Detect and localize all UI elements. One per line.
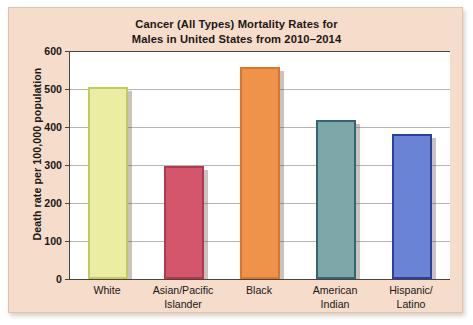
bar-shadow (432, 138, 436, 279)
x-axis-label-line: American (297, 284, 373, 298)
y-tick-label-200: 200 (44, 197, 62, 209)
bar-shadow (356, 124, 360, 279)
x-axis-label-5: Hispanic/Latino (373, 284, 449, 311)
x-axis-label-3: Black (221, 284, 297, 298)
y-tick-label-400: 400 (44, 121, 62, 133)
bar-white (88, 87, 128, 279)
chart-title: Cancer (All Types) Mortality Rates for M… (9, 17, 464, 46)
y-tick-label-300: 300 (44, 159, 62, 171)
y-tick-mark-300 (65, 165, 70, 166)
bar-body (316, 120, 356, 279)
bar-shadow (204, 170, 208, 279)
y-tick-label-500: 500 (44, 83, 62, 95)
plot-area: 6005004003002001000 (69, 51, 450, 280)
y-tick-mark-200 (65, 203, 70, 204)
y-tick-mark-100 (65, 241, 70, 242)
chart-title-line-1: Cancer (All Types) Mortality Rates for (9, 17, 464, 32)
y-tick-mark-0 (65, 279, 70, 280)
y-tick-mark-400 (65, 127, 70, 128)
gridline-600 (70, 51, 450, 52)
y-tick-mark-600 (65, 51, 70, 52)
chart-panel: Cancer (All Types) Mortality Rates for M… (8, 7, 463, 313)
x-axis-label-line: Islander (145, 298, 221, 312)
bar-body (88, 87, 128, 279)
y-axis-title: Death rate per 100,000 population (31, 44, 43, 264)
x-axis-label-1: White (69, 284, 145, 298)
y-tick-label-100: 100 (44, 235, 62, 247)
bar-black (240, 67, 280, 279)
y-tick-label-600: 600 (44, 45, 62, 57)
bar-american-indian (316, 120, 356, 279)
bar-body (164, 166, 204, 279)
x-axis-label-line: Indian (297, 298, 373, 312)
chart-figure: Cancer (All Types) Mortality Rates for M… (0, 0, 473, 325)
x-axis-label-4: AmericanIndian (297, 284, 373, 311)
bar-shadow (280, 71, 284, 279)
y-tick-mark-500 (65, 89, 70, 90)
chart-title-line-2: Males in United States from 2010–2014 (9, 32, 464, 47)
x-axis-label-line: Hispanic/ (373, 284, 449, 298)
x-axis-label-2: Asian/PacificIslander (145, 284, 221, 311)
y-tick-label-0: 0 (56, 273, 62, 285)
x-axis-label-line: Latino (373, 298, 449, 312)
plot-inner (70, 51, 450, 279)
x-axis-label-line: White (69, 284, 145, 298)
x-axis-label-line: Asian/Pacific (145, 284, 221, 298)
bar-hispanic-latino (392, 134, 432, 279)
x-axis-label-line: Black (221, 284, 297, 298)
bar-asian-pacific-islander (164, 166, 204, 279)
bar-body (392, 134, 432, 279)
bar-shadow (128, 91, 132, 279)
bar-body (240, 67, 280, 279)
